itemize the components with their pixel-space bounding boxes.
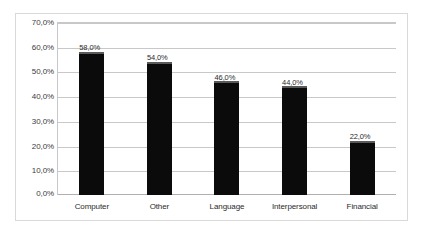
ytick-label-70: 70,0%	[32, 19, 54, 27]
bar-slot-other: 54,0% Other	[126, 23, 194, 195]
bar-value-computer: 58,0%	[79, 44, 100, 52]
bar-chart: 70,0% 60,0% 50,0% 40,0% 30,0% 20,0% 10,0…	[0, 0, 424, 235]
bar-language[interactable]: 46,0%	[214, 81, 239, 195]
bar-slot-interpersonal: 44,0% Interpersonal	[261, 23, 329, 195]
category-label-other: Other	[150, 203, 170, 211]
chart-frame: 70,0% 60,0% 50,0% 40,0% 30,0% 20,0% 10,0…	[15, 13, 408, 221]
category-label-interpersonal: Interpersonal	[272, 203, 317, 211]
bar-slot-computer: 58,0% Computer	[58, 23, 126, 195]
bar-slot-financial: 22,0% Financial	[328, 23, 396, 195]
ytick-label-60: 60,0%	[32, 44, 54, 52]
ytick-label-30: 30,0%	[32, 118, 54, 126]
category-label-language: Language	[210, 203, 245, 211]
ytick-label-40: 40,0%	[32, 93, 54, 101]
bar-series: 58,0% Computer 54,0% Other 46,0% Languag…	[58, 23, 396, 195]
category-label-financial: Financial	[347, 203, 378, 211]
bar-value-financial: 22,0%	[350, 133, 371, 141]
bar-other[interactable]: 54,0%	[147, 62, 172, 195]
plot-area: 70,0% 60,0% 50,0% 40,0% 30,0% 20,0% 10,0…	[57, 22, 396, 195]
bar-computer[interactable]: 58,0%	[79, 52, 104, 195]
bar-value-other: 54,0%	[147, 54, 168, 62]
ytick-label-10: 10,0%	[32, 167, 54, 175]
bar-value-language: 46,0%	[214, 74, 235, 82]
ytick-label-0: 0,0%	[36, 190, 54, 198]
bar-financial[interactable]: 22,0%	[350, 141, 375, 195]
ytick-label-50: 50,0%	[32, 68, 54, 76]
bar-value-interpersonal: 44,0%	[282, 79, 303, 87]
bar-slot-language: 46,0% Language	[193, 23, 261, 195]
category-label-computer: Computer	[75, 203, 109, 211]
bar-interpersonal[interactable]: 44,0%	[282, 86, 307, 195]
ytick-label-20: 20,0%	[32, 143, 54, 151]
